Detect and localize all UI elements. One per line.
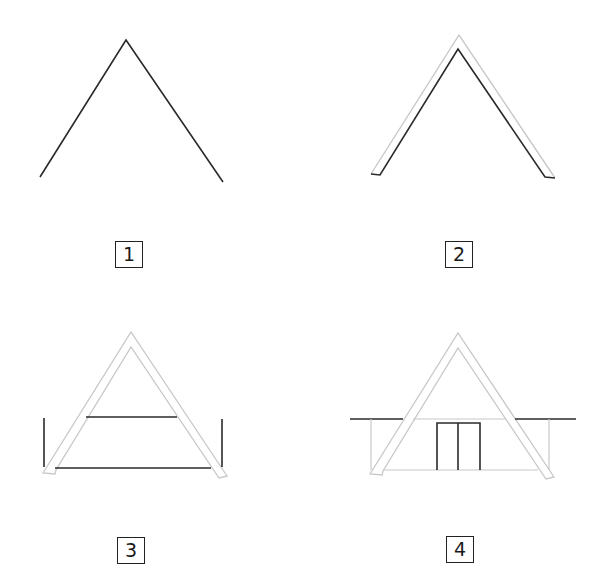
- a-frame-beams: [370, 333, 554, 479]
- step-3-label: 3: [117, 537, 145, 564]
- step-1-drawing: [40, 40, 223, 182]
- roof-outline-line: [40, 40, 223, 182]
- a-frame-beams: [43, 332, 227, 478]
- step-4-drawing: [350, 333, 576, 479]
- step-number: 4: [454, 540, 466, 559]
- step-4-label: 4: [446, 536, 474, 563]
- step-number: 2: [453, 245, 465, 264]
- step-number: 1: [123, 245, 135, 264]
- step-3-drawing: [43, 332, 227, 478]
- step-2-label: 2: [445, 241, 473, 268]
- step-1-label: 1: [115, 241, 143, 268]
- step-2-drawing: [371, 35, 555, 178]
- step-number: 3: [125, 541, 137, 560]
- roof-inner-line: [371, 49, 555, 178]
- diagram-canvas: [0, 0, 599, 584]
